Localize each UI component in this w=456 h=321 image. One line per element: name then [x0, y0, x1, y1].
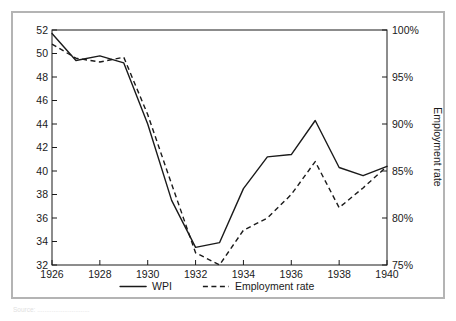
- x-axis-tick-marks: [52, 260, 387, 265]
- legend-label: Employment rate: [235, 280, 315, 292]
- x-tick-label: 1934: [232, 268, 256, 280]
- y-axis-tick-marks: [52, 30, 57, 265]
- line-chart: 3234363840424446485052 75%80%85%90%95%10…: [13, 13, 447, 301]
- series-wpi: [52, 34, 387, 248]
- y-tick-label: 52: [36, 24, 48, 36]
- series-employment-rate: [52, 44, 387, 265]
- x-axis-tick-labels: 19261928193019321934193619381940: [40, 268, 399, 280]
- y-axis-tick-labels: 3234363840424446485052: [36, 24, 48, 271]
- y-tick-label: 46: [36, 94, 48, 106]
- x-tick-label: 1932: [184, 268, 208, 280]
- y-tick-label: 42: [36, 141, 48, 153]
- x-tick-label: 1930: [136, 268, 160, 280]
- y2-axis-title: Employment rate: [432, 107, 444, 187]
- source-caption: Source: .............................: [13, 306, 313, 313]
- y2-tick-label: 80%: [392, 212, 413, 224]
- x-tick-label: 1936: [280, 268, 304, 280]
- legend-item-wpi: WPI: [120, 280, 172, 292]
- y2-axis-tick-labels: 75%80%85%90%95%100%: [392, 24, 419, 271]
- legend-label: WPI: [152, 280, 172, 292]
- y2-axis-tick-marks: [382, 30, 387, 265]
- y2-tick-label: 85%: [392, 165, 413, 177]
- y2-tick-label: 100%: [392, 24, 419, 36]
- y-tick-label: 44: [36, 118, 48, 130]
- plot-area: 3234363840424446485052 75%80%85%90%95%10…: [36, 24, 419, 280]
- y2-tick-label: 95%: [392, 71, 413, 83]
- legend-item-employment-rate: Employment rate: [203, 280, 315, 292]
- y-tick-label: 38: [36, 188, 48, 200]
- x-tick-label: 1926: [40, 268, 64, 280]
- plot-border: [52, 30, 387, 265]
- series-layer: [52, 34, 387, 265]
- y-tick-label: 36: [36, 212, 48, 224]
- y-tick-label: 40: [36, 165, 48, 177]
- y2-tick-label: 90%: [392, 118, 413, 130]
- x-tick-label: 1940: [375, 268, 399, 280]
- x-tick-label: 1928: [88, 268, 112, 280]
- y-tick-label: 48: [36, 71, 48, 83]
- figure-frame: 3234363840424446485052 75%80%85%90%95%10…: [11, 11, 445, 299]
- x-tick-label: 1938: [327, 268, 351, 280]
- y-tick-label: 50: [36, 47, 48, 59]
- chart-legend: WPIEmployment rate: [120, 280, 314, 292]
- y-tick-label: 34: [36, 235, 48, 247]
